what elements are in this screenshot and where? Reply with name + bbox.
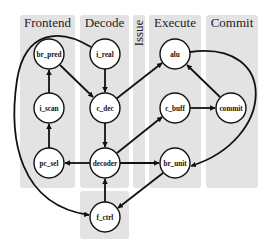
column-label: Frontend — [24, 15, 71, 30]
node-label: alu — [170, 51, 180, 59]
node-label: i_real — [96, 51, 113, 59]
node-decoder: decoder — [90, 148, 120, 178]
column-issue: Issue — [131, 15, 146, 188]
node-br_pred: br_pred — [34, 39, 64, 69]
column-label: Commit — [211, 15, 254, 30]
node-pc_sel: pc_sel — [34, 148, 64, 178]
column-label: Execute — [154, 15, 196, 30]
node-alu: alu — [160, 39, 190, 69]
column-label: Decode — [85, 15, 125, 30]
node-label: commit — [219, 105, 243, 113]
node-c_dec: c_dec — [90, 93, 120, 123]
node-br_unit: br_unit — [160, 148, 190, 178]
node-i_scan: i_scan — [34, 93, 64, 123]
node-label: decoder — [93, 160, 118, 168]
node-label: f_ctrl — [97, 214, 114, 222]
node-label: br_unit — [163, 160, 187, 168]
node-label: c_dec — [96, 105, 114, 113]
column-label: Issue — [131, 19, 146, 46]
node-label: c_buff — [165, 105, 185, 113]
node-c_buff: c_buff — [160, 93, 190, 123]
node-i_real: i_real — [90, 39, 120, 69]
node-label: br_pred — [36, 51, 61, 59]
node-label: i_scan — [39, 105, 58, 113]
node-commit: commit — [216, 93, 246, 123]
node-label: pc_sel — [40, 160, 59, 168]
pipeline-diagram: FrontendDecodeIssueExecuteCommit br_pred… — [0, 0, 272, 246]
node-f_ctrl: f_ctrl — [90, 202, 120, 232]
